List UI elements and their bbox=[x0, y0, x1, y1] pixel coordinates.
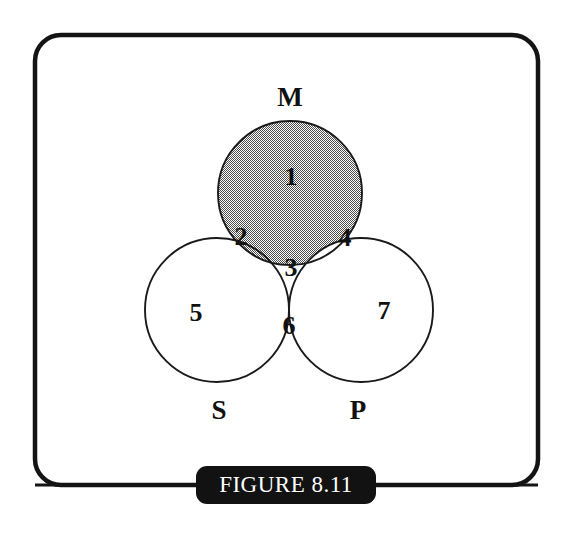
set-label-S: S bbox=[211, 397, 226, 424]
region-number-2: 2 bbox=[235, 224, 248, 250]
figure-caption-plate: FIGURE 8.11 bbox=[196, 466, 376, 504]
region-number-1: 1 bbox=[285, 164, 298, 190]
figure-caption-text: FIGURE 8.11 bbox=[219, 473, 353, 497]
set-label-M: M bbox=[277, 84, 302, 111]
region-number-7: 7 bbox=[378, 298, 391, 324]
region-number-6: 6 bbox=[283, 313, 296, 339]
region-number-4: 4 bbox=[339, 225, 352, 251]
region-number-5: 5 bbox=[190, 300, 203, 326]
set-label-P: P bbox=[350, 397, 367, 424]
figure-container: M S P 1 2 3 4 5 6 7 FIGURE 8.11 bbox=[0, 0, 575, 539]
region-number-3: 3 bbox=[285, 255, 298, 281]
